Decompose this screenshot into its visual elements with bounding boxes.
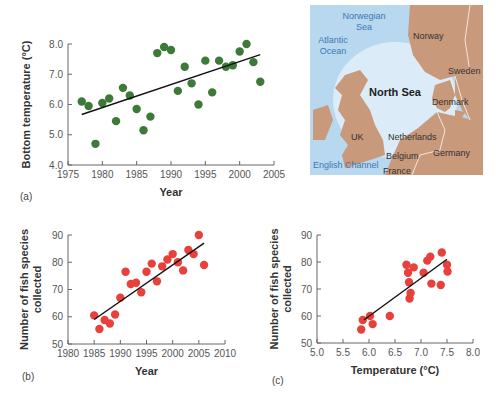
panel-label-c: (c): [272, 375, 284, 386]
figure-canvas: Norwegian Sea Atlantic Ocean Norway Swed…: [0, 0, 501, 402]
data-point: [249, 58, 257, 66]
data-point: [357, 325, 365, 333]
data-point: [187, 79, 195, 87]
map-label-germany: Germany: [433, 148, 471, 158]
y-tick-label: 60: [52, 311, 64, 322]
data-point: [195, 231, 203, 239]
x-tick-label: 7.0: [414, 347, 428, 358]
trend-line: [94, 243, 204, 319]
data-point: [215, 56, 223, 64]
y-tick-label: 90: [301, 230, 313, 241]
data-point: [359, 316, 367, 324]
data-point: [158, 262, 166, 270]
data-point: [437, 281, 445, 289]
map-label-uk: UK: [351, 132, 364, 142]
data-point: [386, 312, 394, 320]
map-label-norwegian-sea-line1: Norwegian: [342, 11, 385, 21]
data-point: [201, 56, 209, 64]
data-point: [142, 268, 150, 276]
data-point: [112, 117, 120, 125]
y-tick-label: 70: [52, 284, 64, 295]
data-point: [438, 248, 446, 256]
data-point: [200, 261, 208, 269]
data-point: [84, 102, 92, 110]
y-tick-label: 4.0: [49, 160, 63, 171]
data-point: [242, 40, 250, 48]
x-tick-label: 2010: [214, 348, 237, 359]
y-tick-label: 8.0: [49, 39, 63, 50]
data-point: [91, 140, 99, 148]
data-point: [121, 268, 129, 276]
x-tick-label: 2000: [162, 348, 185, 359]
x-tick-label: 1985: [126, 169, 149, 180]
data-point: [148, 259, 156, 267]
data-point: [426, 252, 434, 260]
north-sea-map: Norwegian Sea Atlantic Ocean Norway Swed…: [310, 5, 483, 176]
x-axis-label: Year: [135, 365, 159, 377]
data-point: [111, 310, 119, 318]
trend-line: [82, 55, 261, 115]
x-tick-label: 2000: [229, 169, 252, 180]
map-label-sweden: Sweden: [448, 66, 481, 76]
data-point: [235, 47, 243, 55]
data-point: [168, 250, 176, 258]
data-point: [174, 87, 182, 95]
y-tick-label: 7.0: [49, 69, 63, 80]
y-axis-label: Bottom temperature (°C): [20, 40, 32, 168]
x-tick-label: 1980: [57, 348, 80, 359]
map-label-netherlands: Netherlands: [388, 132, 437, 142]
data-point: [208, 88, 216, 96]
x-tick-label: 1995: [135, 348, 158, 359]
data-point: [90, 311, 98, 319]
x-tick-label: 7.5: [440, 347, 454, 358]
map-label-france: France: [383, 166, 411, 176]
x-axis-label: Temperature (°C): [351, 364, 440, 376]
x-tick-label: 8.0: [466, 347, 480, 358]
data-point: [181, 62, 189, 70]
y-tick-label: 70: [301, 284, 313, 295]
x-tick-label: 1985: [83, 348, 106, 359]
map-label-norway: Norway: [413, 31, 444, 41]
data-point: [256, 78, 264, 86]
y-axis-label-line2: collected: [31, 266, 43, 314]
map-label-denmark: Denmark: [432, 97, 469, 107]
data-point: [406, 289, 414, 297]
map-title-north-sea: North Sea: [369, 86, 422, 98]
x-tick-label: 1990: [109, 348, 132, 359]
y-tick-label: 80: [52, 257, 64, 268]
x-tick-label: 1975: [57, 169, 80, 180]
data-point: [139, 126, 147, 134]
y-tick-label: 60: [301, 311, 313, 322]
map-label-english-channel: English Channel: [313, 160, 379, 170]
x-tick-label: 2005: [263, 169, 286, 180]
y-tick-label: 50: [52, 339, 64, 350]
data-point: [410, 263, 418, 271]
y-tick-label: 6.0: [49, 99, 63, 110]
y-axis-label-line2: collected: [281, 265, 293, 313]
data-point: [146, 112, 154, 120]
x-tick-label: 1995: [194, 169, 217, 180]
data-point: [119, 84, 127, 92]
x-tick-label: 6.5: [388, 347, 402, 358]
data-point: [105, 94, 113, 102]
y-tick-label: 5.0: [49, 129, 63, 140]
x-tick-label: 1980: [91, 169, 114, 180]
y-tick-label: 80: [301, 257, 313, 268]
chart-c-fish-species-by-temperature: 5.05.56.06.57.07.58.05060708090Temperatu…: [268, 228, 480, 376]
x-axis-label: Year: [159, 186, 183, 198]
data-point: [443, 267, 451, 275]
data-point: [194, 100, 202, 108]
y-axis-label-line1: Number of fish species: [18, 229, 30, 350]
chart-a-bottom-temperature: 19751980198519901995200020054.05.06.07.0…: [20, 39, 286, 199]
x-tick-label: 5.5: [336, 347, 350, 358]
map-label-norwegian-sea-line2: Sea: [356, 22, 372, 32]
data-point: [78, 97, 86, 105]
map-label-atlantic-line1: Atlantic: [318, 35, 348, 45]
map-label-belgium: Belgium: [386, 151, 419, 161]
y-tick-label: 50: [301, 338, 313, 349]
x-tick-label: 2005: [188, 348, 211, 359]
x-tick-label: 6.0: [362, 347, 376, 358]
data-point: [179, 266, 187, 274]
data-point: [132, 105, 140, 113]
data-point: [167, 46, 175, 54]
